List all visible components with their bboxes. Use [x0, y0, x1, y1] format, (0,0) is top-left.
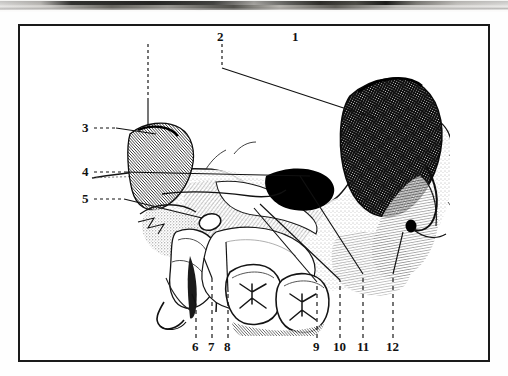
- figure-frame: 2 1 3 4 5 6 7 8 9 10 11 12: [18, 24, 490, 362]
- leader-1-solid: [222, 68, 374, 118]
- label-3: 3: [82, 121, 89, 134]
- anatomical-illustration: [20, 26, 488, 360]
- label-10: 10: [333, 340, 346, 353]
- label-2: 2: [217, 30, 224, 43]
- figure-canvas: 2 1 3 4 5 6 7 8 9 10 11 12: [20, 26, 488, 360]
- photo-strip-art: [0, 1, 508, 13]
- label-11: 11: [357, 340, 369, 353]
- label-4: 4: [82, 165, 89, 178]
- label-1: 1: [292, 30, 299, 43]
- dissection-artwork: [92, 78, 456, 344]
- top-photograph-strip: [0, 0, 508, 13]
- label-8: 8: [224, 340, 231, 353]
- maxillary-molars: [226, 265, 329, 345]
- label-7: 7: [208, 340, 215, 353]
- label-9: 9: [313, 340, 320, 353]
- label-5: 5: [82, 192, 89, 205]
- label-12: 12: [386, 340, 399, 353]
- label-6: 6: [192, 340, 199, 353]
- figure-page: 2 1 3 4 5 6 7 8 9 10 11 12: [0, 0, 508, 376]
